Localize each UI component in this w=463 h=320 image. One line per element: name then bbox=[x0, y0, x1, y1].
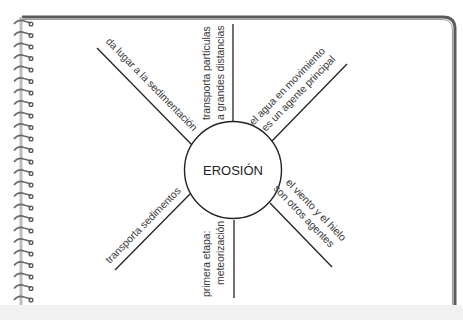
spiral-hole bbox=[29, 264, 33, 268]
spiral-hole bbox=[29, 298, 33, 302]
branch-text-bottom-2: meteorización bbox=[214, 221, 226, 285]
branch-text-top-1: transporta partículas bbox=[200, 26, 212, 120]
spiral-hole bbox=[29, 137, 33, 141]
spiral-hole bbox=[29, 183, 33, 187]
spiral-hole bbox=[29, 287, 33, 291]
spiral-hole bbox=[29, 114, 33, 118]
spiral-hole bbox=[29, 160, 33, 164]
spiral-hole bbox=[29, 149, 33, 153]
spiral-hole bbox=[29, 68, 33, 72]
spiral-hole bbox=[29, 126, 33, 130]
spiral-hole bbox=[29, 103, 33, 107]
spiral-hole bbox=[29, 206, 33, 210]
spiral-hole bbox=[29, 172, 33, 176]
spiral-hole bbox=[29, 241, 33, 245]
branch-text-lower-left: transporta sedimentos bbox=[103, 184, 183, 265]
notebook-page: EROSIÓN da lugar a la sedimentación tran… bbox=[0, 0, 463, 320]
spiral-hole bbox=[29, 91, 33, 95]
center-label: EROSIÓN bbox=[203, 163, 263, 178]
spider-diagram: EROSIÓN da lugar a la sedimentación tran… bbox=[0, 0, 463, 320]
spiral-hole bbox=[29, 45, 33, 49]
branch-text-top-2: a grandes distancias bbox=[214, 26, 226, 120]
spiral-hole bbox=[29, 57, 33, 61]
spiral-hole bbox=[29, 218, 33, 222]
spiral-hole bbox=[29, 34, 33, 38]
branch-text-upper-left: da lugar a la sedimentación bbox=[104, 35, 201, 133]
spiral-binding bbox=[14, 20, 33, 301]
spiral-hole bbox=[29, 195, 33, 199]
spiral-hole bbox=[29, 252, 33, 256]
spiral-hole bbox=[29, 275, 33, 279]
branch-text-bottom-1: primera etapa: bbox=[200, 231, 212, 297]
spiral-hole bbox=[29, 229, 33, 233]
branch-text-upper-right-1: el agua en movimiento bbox=[246, 44, 327, 127]
spiral-hole bbox=[29, 22, 33, 26]
spiral-hole bbox=[29, 80, 33, 84]
branch-line-upper-left bbox=[97, 48, 192, 145]
